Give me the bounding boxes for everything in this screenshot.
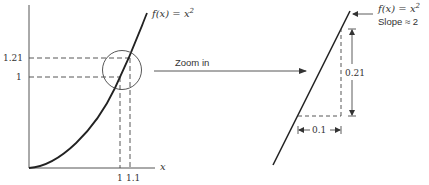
zoomed-curve-line <box>273 11 350 165</box>
zoomed-function-label: f(x) = x2 <box>377 2 421 14</box>
right-plot: 0.21 0.1 f(x) = x2 Slope ≈ 2 <box>273 2 421 165</box>
function-label: f(x) = x2 <box>151 7 195 19</box>
rise-label: 0.21 <box>345 68 365 78</box>
x-tick-1: 1 <box>117 173 123 183</box>
run-label: 0.1 <box>312 125 326 135</box>
y-tick-1-21: 1.21 <box>3 53 23 63</box>
zoom-in-label: Zoom in <box>175 57 209 68</box>
slope-label: Slope ≈ 2 <box>378 16 418 27</box>
zoom-arrow-group: Zoom in <box>154 57 306 71</box>
x-tick-1-1: 1.1 <box>126 173 140 183</box>
y-tick-1: 1 <box>16 72 22 82</box>
zoom-tangent-diagram: x f(x) = x2 1.21 1 1 1.1 Zoom in <box>0 0 429 185</box>
parabola-curve <box>29 13 147 168</box>
x-axis-label: x <box>160 161 166 172</box>
left-plot: x f(x) = x2 1.21 1 1 1.1 <box>3 5 195 183</box>
dashed-guides <box>29 58 130 168</box>
zoom-circle <box>103 51 142 90</box>
